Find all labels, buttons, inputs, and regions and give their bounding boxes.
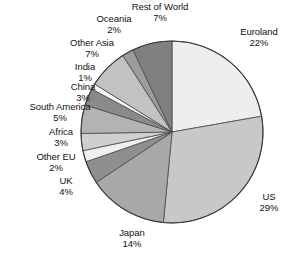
slice-label-value: 29% xyxy=(247,203,291,214)
slice-label-africa: Africa 3% xyxy=(32,127,90,148)
slice-label-value: 2% xyxy=(22,163,90,174)
slice-label-india: India 1% xyxy=(57,62,113,83)
slice-label-oceania: Oceania 2% xyxy=(84,14,144,35)
slice-label-name: Rest of World xyxy=(117,2,203,13)
slice-label-other-asia: Other Asia 7% xyxy=(56,38,128,59)
slice-label-euroland: Euroland 22% xyxy=(228,27,290,48)
slice-label-china: China 3% xyxy=(54,82,112,103)
slice-label-name: Africa xyxy=(32,127,90,138)
slice-label-value: 2% xyxy=(84,25,144,36)
slice-label-name: Oceania xyxy=(84,14,144,25)
slice-label-other-eu: Other EU 2% xyxy=(22,152,90,173)
slice-label-value: 7% xyxy=(56,49,128,60)
slice-label-name: South America xyxy=(14,102,106,113)
slice-label-japan: Japan 14% xyxy=(104,228,160,249)
slice-label-name: China xyxy=(54,82,112,93)
slice-label-name: India xyxy=(57,62,113,73)
slice-label-value: 5% xyxy=(14,113,106,124)
pie-chart-figure: Rest of World 7% Oceania 2% Other Asia 7… xyxy=(0,0,301,260)
slice-label-value: 4% xyxy=(40,187,92,198)
slice-label-name: Other EU xyxy=(22,152,90,163)
slice-label-value: 14% xyxy=(104,239,160,250)
slice-label-south-america: South America 5% xyxy=(14,102,106,123)
slice-label-name: UK xyxy=(40,176,92,187)
slice-label-us: US 29% xyxy=(247,192,291,213)
slice-label-value: 3% xyxy=(32,138,90,149)
slice-label-name: US xyxy=(247,192,291,203)
slice-label-name: Euroland xyxy=(228,27,290,38)
slice-label-name: Other Asia xyxy=(56,38,128,49)
slice-label-uk: UK 4% xyxy=(40,176,92,197)
slice-label-value: 22% xyxy=(228,38,290,49)
slice-label-name: Japan xyxy=(104,228,160,239)
